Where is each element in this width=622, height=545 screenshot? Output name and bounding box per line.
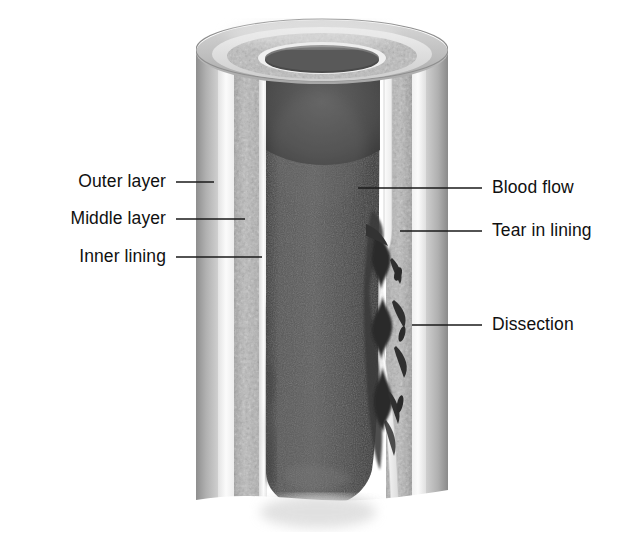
light-band-left — [218, 52, 234, 545]
outer-layer-left — [196, 52, 218, 545]
blood-highlight — [270, 92, 366, 208]
inner-lining-left — [259, 52, 267, 545]
label-blood-flow: Blood flow — [492, 177, 574, 198]
label-dissection: Dissection — [492, 314, 574, 335]
vessel-diagram — [0, 0, 622, 545]
label-middle-layer: Middle layer — [70, 208, 166, 229]
illustration-canvas: Outer layer Middle layer Inner lining Bl… — [0, 0, 622, 545]
label-tear-in-lining: Tear in lining — [492, 220, 592, 241]
vessel-body — [0, 0, 622, 545]
label-outer-layer: Outer layer — [78, 171, 166, 192]
vessel-top-rim — [196, 19, 448, 84]
middle-layer-left — [234, 52, 260, 545]
base-shadow — [196, 490, 448, 545]
label-inner-lining: Inner lining — [79, 246, 166, 267]
light-band-right — [410, 52, 426, 545]
blood-column — [266, 60, 380, 507]
outer-layer-right — [426, 52, 448, 545]
